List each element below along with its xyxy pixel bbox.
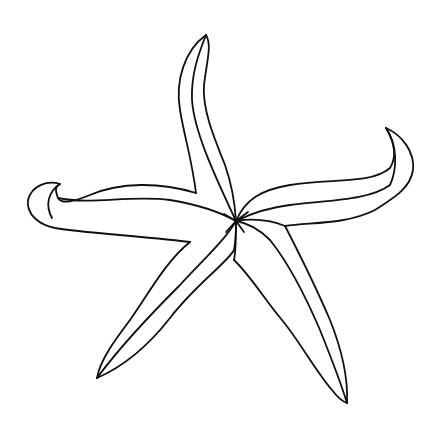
starfish-drawing (0, 0, 444, 434)
bottom-right-arm (234, 221, 347, 403)
right-arm (236, 128, 413, 226)
starfish-svg (0, 0, 444, 434)
bottom-left-arm (97, 221, 236, 378)
left-arm (28, 183, 236, 242)
center-point (234, 219, 238, 223)
top-arm (179, 35, 236, 221)
